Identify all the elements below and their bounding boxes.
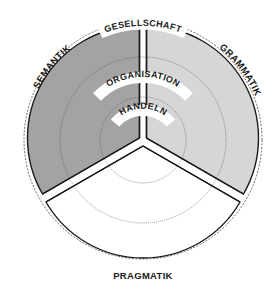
sector-label-pragmatik: PRAGMATIK [113, 270, 173, 281]
semiotics-levels-diagram: GESELLSCHAFT ORGANISATION HANDELN SEMANT… [0, 0, 280, 290]
